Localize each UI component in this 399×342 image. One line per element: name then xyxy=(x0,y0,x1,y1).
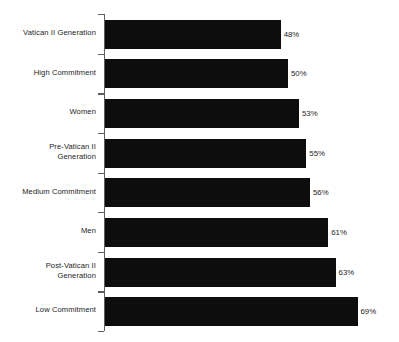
bar-value-label: 50% xyxy=(291,69,307,78)
bar-value-label: 56% xyxy=(313,188,329,197)
category-label: Medium Commitment xyxy=(4,187,96,197)
bar xyxy=(105,99,299,128)
axis-tick xyxy=(98,14,104,15)
category-label: Post-Vatican II Generation xyxy=(4,261,96,280)
bar-value-label: 69% xyxy=(361,307,377,316)
bar-value-label: 63% xyxy=(339,268,355,277)
axis-tick xyxy=(98,252,104,253)
axis-tick xyxy=(98,212,104,213)
category-label: Men xyxy=(4,226,96,236)
bar xyxy=(105,258,336,287)
category-label: High Commitment xyxy=(4,68,96,78)
bar xyxy=(105,139,306,168)
bar-chart: Vatican II Generation48%High Commitment5… xyxy=(0,0,399,342)
bar xyxy=(105,297,358,326)
bar-value-label: 55% xyxy=(309,149,325,158)
axis-tick xyxy=(98,93,104,94)
axis-tick xyxy=(98,331,104,332)
axis-tick xyxy=(98,173,104,174)
axis-tick xyxy=(98,54,104,55)
axis-tick xyxy=(98,291,104,292)
bar-value-label: 53% xyxy=(302,109,318,118)
bar xyxy=(105,20,281,49)
bar-value-label: 48% xyxy=(284,30,300,39)
bar-value-label: 61% xyxy=(331,228,347,237)
bar xyxy=(105,59,288,88)
category-label: Low Commitment xyxy=(4,305,96,315)
bar xyxy=(105,218,328,247)
category-label: Pre-Vatican II Generation xyxy=(4,142,96,161)
category-label: Women xyxy=(4,107,96,117)
axis-tick xyxy=(98,133,104,134)
category-label: Vatican II Generation xyxy=(4,28,96,38)
bar xyxy=(105,178,310,207)
